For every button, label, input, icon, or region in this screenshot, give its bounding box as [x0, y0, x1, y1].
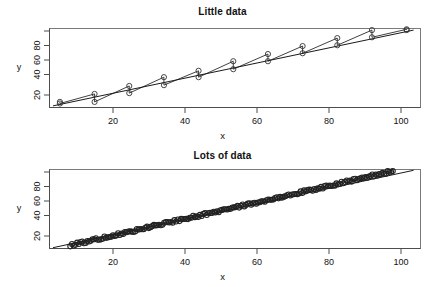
x-axis-bottom [50, 249, 421, 255]
panel-lots-of-data: Lots of data 20 4 [0, 144, 445, 287]
y-tick-label: 60 [32, 55, 42, 65]
y-tick-label: 20 [32, 90, 42, 100]
y-tick-labels-bottom: 20 40 60 80 [32, 181, 42, 241]
x-tick-labels-top: 20 40 60 80 100 [108, 116, 409, 126]
x-tick-labels-bottom: 20 40 60 80 100 [108, 257, 409, 267]
x-axis-title-top: x [0, 130, 445, 141]
x-tick-label: 20 [108, 257, 118, 267]
x-axis-top [50, 108, 421, 114]
x-tick-label: 80 [324, 257, 334, 267]
y-tick-labels-top: 20 40 60 80 [32, 40, 42, 100]
panel-little-data: Little data [0, 0, 445, 143]
x-tick-label: 20 [108, 116, 118, 126]
x-tick-label: 60 [252, 116, 262, 126]
y-tick-label: 60 [32, 196, 42, 206]
y-tick-label: 20 [32, 231, 42, 241]
data-layer-bottom [53, 169, 414, 249]
x-tick-label: 40 [180, 257, 190, 267]
x-tick-label: 60 [252, 257, 262, 267]
y-axis-title-top: y [17, 62, 22, 72]
y-tick-label: 80 [32, 181, 42, 191]
y-axis-bottom [44, 170, 50, 249]
plot-area-top: 20 40 60 80 100 20 40 60 80 y [0, 0, 445, 143]
y-tick-label: 40 [32, 69, 42, 79]
y-axis-title-bottom: y [17, 203, 22, 213]
x-tick-label: 40 [180, 116, 190, 126]
y-tick-label: 80 [32, 40, 42, 50]
data-layer-top [53, 27, 414, 106]
plot-area-bottom: 20 40 60 80 100 20 40 60 80 y [0, 144, 445, 287]
x-tick-label: 80 [324, 116, 334, 126]
x-tick-label: 100 [393, 257, 408, 267]
y-tick-label: 40 [32, 210, 42, 220]
x-tick-label: 100 [393, 116, 408, 126]
y-axis-top [44, 29, 50, 108]
regression-line [53, 30, 414, 106]
x-axis-title-bottom: x [0, 271, 445, 282]
figure-canvas: Little data [0, 0, 445, 287]
